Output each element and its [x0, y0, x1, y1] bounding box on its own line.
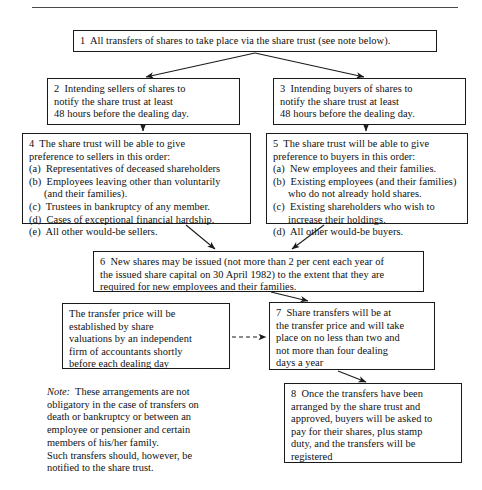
box-4-item-b-cont: (and their families).	[29, 188, 245, 201]
box-7-line: days a year	[276, 357, 429, 370]
box-7-line: place on no less than two and	[276, 332, 429, 345]
box-4-item-d: (d) Cases of exceptional financial hards…	[29, 214, 245, 227]
note-line: death or bankruptcy or between an	[47, 411, 252, 424]
box-4-line: 4 The share trust will be able to give	[29, 138, 245, 151]
transfer-price-line: The transfer price will be	[69, 308, 224, 321]
note-label: Note:	[47, 386, 70, 397]
box-4-item-e: (e) All other would-be sellers.	[29, 226, 245, 239]
box-5-line: preference to buyers in this order:	[273, 151, 462, 164]
box-5-item-d: (d) All other would-be buyers.	[273, 226, 462, 239]
arrow-box1-to-box2	[146, 53, 255, 77]
box-4-item-c: (c) Trustees in bankruptcy of any member…	[29, 201, 245, 214]
box-6-line: the issued share capital on 30 April 198…	[100, 269, 418, 282]
box-4-item-b: (b) Employees leaving other than volunta…	[29, 176, 245, 189]
flowchart-box-4[interactable]: 4 The share trust will be able to give p…	[22, 133, 251, 224]
box-5-item-a: (a) New employees and their families.	[273, 163, 462, 176]
top-horizontal-rule	[32, 7, 458, 8]
flowchart-box-1[interactable]: 1 All transfers of shares to take place …	[73, 30, 437, 52]
box-8-line: pay for their shares, plus stamp	[291, 426, 456, 439]
box-2-line: notify the share trust at least	[54, 96, 234, 109]
transfer-price-line: before each dealing day	[69, 358, 224, 371]
box-3-line: notify the share trust at least	[280, 96, 460, 109]
flowchart-box-transfer-price[interactable]: The transfer price will be established b…	[62, 303, 230, 369]
note-line: These arrangements are not	[70, 386, 190, 397]
box-4-line: preference to sellers in this order:	[29, 151, 245, 164]
box-5-item-b: (b) Existing employees (and their famili…	[273, 176, 462, 189]
box-8-line: registered	[291, 451, 456, 464]
transfer-price-line: established by share	[69, 321, 224, 334]
box-2-line: 2 Intending sellers of shares to	[54, 83, 234, 96]
flowchart-page: 1 All transfers of shares to take place …	[0, 0, 482, 490]
box-8-line: approved, buyers will be asked to	[291, 413, 456, 426]
flowchart-box-2[interactable]: 2 Intending sellers of shares to notify …	[47, 78, 240, 125]
flowchart-box-8[interactable]: 8 Once the transfers have been arranged …	[284, 383, 462, 463]
box-8-line: 8 Once the transfers have been	[291, 388, 456, 401]
box-4-item-a: (a) Representatives of deceased sharehol…	[29, 163, 245, 176]
box-8-line: duty, and the transfers will be	[291, 438, 456, 451]
box-5-item-c: (c) Existing shareholders who wish to	[273, 201, 462, 214]
box-6-line: required for new employees and their fam…	[100, 281, 418, 294]
transfer-price-line: valuations by an independent	[69, 333, 224, 346]
box-5-item-c-cont: increase their holdings.	[273, 214, 462, 227]
note-block: Note: These arrangements are not obligat…	[47, 386, 252, 478]
flowchart-box-6[interactable]: 6 New shares may be issued (not more tha…	[93, 251, 424, 292]
box-7-line: 7 Share transfers will be at	[276, 307, 429, 320]
note-first-line: Note: These arrangements are not	[47, 386, 252, 399]
note-line: notified to the share trust.	[47, 462, 252, 475]
arrow-box7-to-box8	[338, 371, 366, 382]
flowchart-box-3[interactable]: 3 Intending buyers of shares to notify t…	[273, 78, 466, 125]
box-3-line: 3 Intending buyers of shares to	[280, 83, 460, 96]
box-5-line: 5 The share trust will be able to give	[273, 138, 462, 151]
flowchart-box-5[interactable]: 5 The share trust will be able to give p…	[266, 133, 468, 224]
note-line: Such transfers should, however, be	[47, 450, 252, 463]
transfer-price-line: firm of accountants shortly	[69, 346, 224, 359]
flowchart-box-7[interactable]: 7 Share transfers will be at the transfe…	[269, 302, 435, 370]
note-line: obligatory in the case of transfers on	[47, 399, 252, 412]
box-6-line: 6 New shares may be issued (not more tha…	[100, 256, 418, 269]
box-3-line: 48 hours before the dealing day.	[280, 108, 460, 121]
box-7-line: the transfer price and will take	[276, 320, 429, 333]
box-5-item-b-cont: who do not already hold shares.	[273, 188, 462, 201]
note-line: employee or pensioner and certain	[47, 424, 252, 437]
note-line: members of his/her family.	[47, 437, 252, 450]
box-8-line: arranged by the share trust and	[291, 401, 456, 414]
box-1-line: 1 All transfers of shares to take place …	[80, 35, 431, 48]
arrow-box1-to-box3	[255, 53, 364, 77]
box-7-line: not more than four dealing	[276, 345, 429, 358]
box-2-line: 48 hours before the dealing day.	[54, 108, 234, 121]
